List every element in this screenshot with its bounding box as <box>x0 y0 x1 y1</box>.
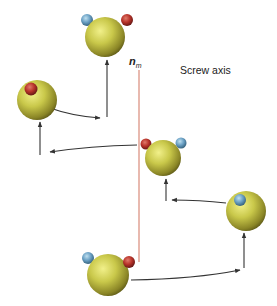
screw-axis-label: Screw axis <box>180 64 231 76</box>
arrow-axis-to-left <box>50 145 137 152</box>
arrow-right-to-middle <box>172 200 226 203</box>
axis-symbol-subscript: m <box>136 62 142 69</box>
marker-red-ball <box>121 14 133 26</box>
axis-symbol: n <box>129 55 136 67</box>
screw-axis-diagram <box>0 0 277 306</box>
sphere-right <box>226 191 266 231</box>
sphere-middle <box>141 138 187 177</box>
arrows <box>40 60 244 280</box>
axis-symbol-label: nm <box>129 55 142 69</box>
marker-blue-ball <box>176 138 187 149</box>
arrow-bottom-to-right <box>131 270 240 280</box>
marker-blue-ball <box>234 194 246 206</box>
sphere-left <box>17 80 57 120</box>
sphere-top <box>81 14 133 57</box>
marker-red-ball <box>123 256 135 268</box>
sphere-bottom <box>82 252 135 296</box>
sphere-body <box>226 191 266 231</box>
marker-red-ball <box>25 83 38 96</box>
sphere-body <box>17 80 57 120</box>
sphere-body <box>87 254 129 296</box>
sphere-body <box>145 140 181 176</box>
sphere-body <box>85 17 125 57</box>
arrow-left-to-up <box>50 108 100 118</box>
